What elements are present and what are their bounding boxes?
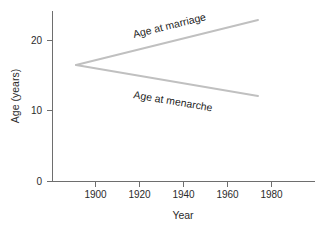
x-tick-label-1920: 1920 <box>128 189 151 200</box>
series-annotation-age-at-menarche: Age at menarche <box>133 88 214 113</box>
line-chart: 20 10 0 1900 1920 1940 1960 1980 Year Ag… <box>0 0 329 231</box>
y-tick-label-0: 0 <box>36 176 42 187</box>
y-axis-title: Age (years) <box>9 69 21 123</box>
x-tick-label-1980: 1980 <box>260 189 283 200</box>
chart-container: 20 10 0 1900 1920 1940 1960 1980 Year Ag… <box>0 0 329 231</box>
y-tick-label-10: 10 <box>31 105 43 116</box>
x-tick-label-1900: 1900 <box>84 189 107 200</box>
x-tick-label-1940: 1940 <box>172 189 195 200</box>
y-tick-label-20: 20 <box>31 35 43 46</box>
x-axis-title: Year <box>172 209 194 221</box>
x-tick-label-1960: 1960 <box>216 189 239 200</box>
series-line-age-at-menarche <box>76 65 258 96</box>
